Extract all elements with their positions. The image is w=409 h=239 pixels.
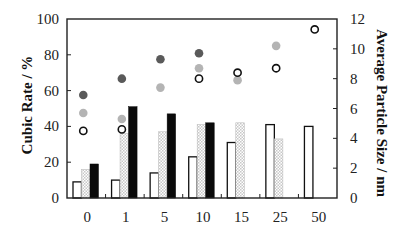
right-tick-label: 0 [350, 190, 358, 206]
point-series-open-circles-50 [311, 26, 318, 33]
left-tick-label: 80 [44, 47, 59, 63]
bar-series-white-50 [304, 126, 313, 198]
point-series-light-gray-dots-1 [118, 115, 127, 124]
point-series-dark-gray-dots-5 [156, 55, 165, 64]
point-series-light-gray-dots-10 [195, 64, 204, 73]
point-series-light-gray-dots-25 [272, 42, 281, 51]
point-series-light-gray-dots-5 [156, 83, 165, 92]
x-tick-label: 50 [311, 209, 326, 225]
bar-series-hatched-5 [159, 132, 168, 198]
right-tick-label: 4 [350, 130, 358, 146]
bar-series-hatched-10 [197, 125, 206, 198]
bar-series-white-15 [227, 143, 236, 198]
point-series-light-gray-dots-15 [233, 76, 242, 85]
right-tick-label: 8 [350, 71, 358, 87]
bar-series-white-5 [150, 173, 159, 198]
right-axis-title: Average Particle Size / nm [374, 29, 390, 197]
x-tick-label: 15 [234, 209, 249, 225]
bar-series-black-5 [167, 114, 176, 198]
chart: 020406080100 024681012 01510152550 Cubic… [0, 0, 409, 239]
bar-layer [73, 107, 313, 198]
x-tick-label: 25 [273, 209, 288, 225]
point-series-dark-gray-dots-1 [118, 74, 127, 83]
x-tick-label: 10 [196, 209, 211, 225]
point-series-open-circles-25 [273, 65, 280, 72]
bar-series-white-0 [73, 182, 82, 198]
left-tick-label: 100 [37, 11, 60, 27]
right-tick-label: 10 [350, 41, 365, 57]
left-tick-label: 0 [52, 190, 60, 206]
point-series-open-circles-10 [195, 75, 202, 82]
right-tick-label: 6 [350, 101, 358, 117]
point-series-open-circles-1 [118, 126, 125, 133]
point-series-dark-gray-dots-10 [195, 49, 204, 58]
point-series-dark-gray-dots-0 [79, 91, 88, 100]
bar-series-hatched-0 [82, 169, 91, 198]
bar-series-black-0 [90, 164, 99, 198]
bar-series-white-1 [112, 180, 121, 198]
bar-series-hatched-25 [274, 139, 283, 198]
right-tick-label: 12 [350, 11, 365, 27]
point-layer [79, 26, 318, 135]
left-tick-label: 60 [44, 83, 59, 99]
right-tick-label: 2 [350, 160, 358, 176]
bar-series-hatched-15 [236, 123, 245, 198]
bar-series-black-10 [206, 123, 215, 198]
right-axis-ticks: 024681012 [333, 11, 365, 206]
bar-series-white-25 [266, 125, 275, 198]
x-tick-label: 0 [84, 209, 92, 225]
point-series-open-circles-15 [234, 69, 241, 76]
bar-series-black-1 [129, 107, 138, 198]
bar-series-white-10 [189, 157, 198, 198]
left-axis-title: Cubic Rate / % [19, 56, 35, 155]
left-axis-ticks: 020406080100 [37, 11, 72, 206]
x-tick-label: 1 [122, 209, 130, 225]
bar-series-hatched-1 [120, 134, 129, 198]
left-tick-label: 40 [44, 118, 59, 134]
x-tick-label: 5 [161, 209, 169, 225]
left-tick-label: 20 [44, 154, 59, 170]
point-series-open-circles-0 [80, 127, 87, 134]
point-series-light-gray-dots-0 [79, 109, 88, 118]
